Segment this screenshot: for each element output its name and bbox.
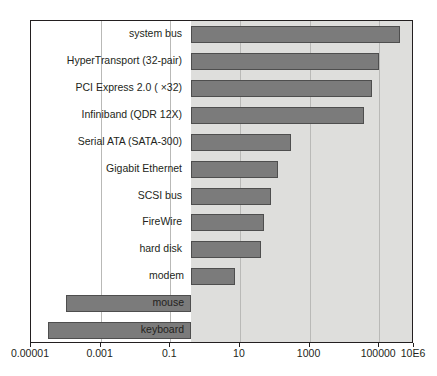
- bar: [191, 107, 364, 124]
- x-tick-mark: [239, 343, 240, 347]
- category-label: hard disk: [139, 235, 186, 262]
- bar: [191, 53, 379, 70]
- category-label: Infiniband (QDR 12X): [82, 101, 186, 128]
- bar-row: [31, 156, 412, 183]
- category-label: mouse: [152, 289, 188, 316]
- bar-row: [31, 236, 412, 263]
- x-tick-mark: [169, 343, 170, 347]
- bar-row: [31, 317, 412, 344]
- x-tick-mark: [378, 343, 379, 347]
- category-label: HyperTransport (32-pair): [67, 47, 186, 74]
- bar: [191, 241, 261, 258]
- x-tick-mark: [30, 343, 31, 347]
- bar-row: [31, 209, 412, 236]
- x-tick-label: 0.001: [86, 347, 112, 359]
- x-tick-label: 1000: [297, 347, 320, 359]
- bar-row: [31, 21, 412, 48]
- x-tick-label: 100000: [361, 347, 396, 359]
- bar-row: [31, 263, 412, 290]
- x-tick-label: 0.00001: [11, 347, 49, 359]
- bar: [191, 188, 271, 205]
- category-label: SCSI bus: [138, 182, 186, 209]
- bar: [191, 26, 400, 43]
- bar: [191, 161, 278, 178]
- x-tick-label: 10E6: [401, 347, 426, 359]
- x-tick-mark: [413, 343, 414, 347]
- bar-row: [31, 290, 412, 317]
- x-tick-label: 0.1: [162, 347, 177, 359]
- bar: [191, 214, 264, 231]
- category-label: Serial ATA (SATA-300): [78, 128, 186, 155]
- bar: [191, 134, 291, 151]
- bar: [191, 268, 235, 285]
- category-label: Gigabit Ethernet: [106, 155, 186, 182]
- x-tick-label: 10: [233, 347, 245, 359]
- category-label: system bus: [129, 20, 186, 47]
- x-tick-mark: [100, 343, 101, 347]
- category-label: PCI Express 2.0 ( ×32): [75, 74, 186, 101]
- bar-row: [31, 183, 412, 210]
- category-label: FireWire: [142, 208, 186, 235]
- bar-chart: system busHyperTransport (32-pair)PCI Ex…: [0, 0, 437, 376]
- category-label: keyboard: [141, 316, 188, 343]
- bar: [191, 80, 372, 97]
- category-label: modem: [149, 262, 188, 289]
- x-tick-mark: [309, 343, 310, 347]
